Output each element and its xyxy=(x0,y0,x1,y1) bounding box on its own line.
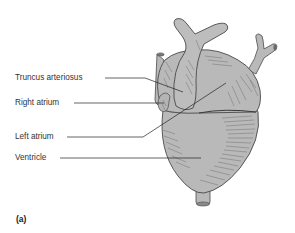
label-right-atrium: Right atrium xyxy=(15,99,59,107)
heart-body xyxy=(158,50,261,193)
label-truncus-arteriosus: Truncus arteriosus xyxy=(15,74,83,82)
heart-diagram: Truncus arteriosus Right atrium Left atr… xyxy=(0,0,295,233)
right-vessel xyxy=(248,34,277,74)
label-ventricle: Ventricle xyxy=(15,154,46,162)
label-left-atrium: Left atrium xyxy=(15,133,54,141)
heart-illustration xyxy=(0,0,295,233)
figure-caption: (a) xyxy=(16,214,26,224)
